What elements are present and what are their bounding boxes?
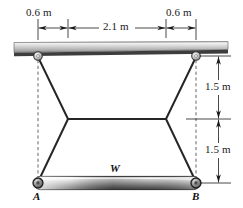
member-top-left [38, 57, 68, 119]
member-bottom-right [166, 119, 196, 182]
pin-top-left-hole [37, 55, 40, 58]
right-dimension-group [186, 56, 238, 183]
label-point-b: B [192, 190, 199, 202]
pin-top-right-hole [195, 55, 198, 58]
member-bottom-left [38, 119, 68, 182]
dim-label-right-lower: 1.5 m [205, 143, 231, 155]
label-point-a: A [33, 190, 40, 202]
dim-label-top-left: 0.6 m [26, 6, 52, 18]
dim-label-top-middle: 2.1 m [103, 20, 129, 32]
member-top-right [166, 57, 196, 119]
dim-label-right-upper: 1.5 m [205, 80, 231, 92]
label-load-w: W [110, 162, 120, 174]
truss-figure: 0.6 m 2.1 m 0.6 m 1.5 m 1.5 m A B W [0, 0, 243, 208]
pin-bottom-right-hole [194, 181, 198, 185]
pin-bottom-left-hole [36, 181, 40, 185]
load-bar [34, 176, 200, 189]
dim-label-top-right: 0.6 m [166, 6, 192, 18]
